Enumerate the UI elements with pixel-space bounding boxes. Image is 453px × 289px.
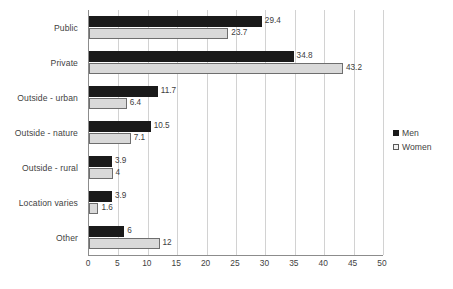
bar-value-label: 7.1 bbox=[134, 134, 145, 142]
bar-row: 29.4 bbox=[89, 16, 383, 27]
bar-group: 11.76.4 bbox=[89, 80, 383, 115]
legend-item-women[interactable]: Women bbox=[393, 140, 453, 154]
bar-women[interactable] bbox=[89, 168, 113, 179]
bar-value-label: 12 bbox=[163, 239, 172, 247]
bar-group: 3.91.6 bbox=[89, 185, 383, 220]
bar-value-label: 10.5 bbox=[154, 122, 170, 130]
legend-label: Women bbox=[402, 142, 431, 152]
bar-row: 23.7 bbox=[89, 28, 383, 39]
bar-value-label: 34.8 bbox=[297, 52, 313, 60]
x-axis-tick-labels: 05101520253035404550 bbox=[88, 258, 382, 274]
bar-men[interactable] bbox=[89, 226, 124, 237]
bar-row: 3.9 bbox=[89, 191, 383, 202]
bar-row: 6 bbox=[89, 226, 383, 237]
bar-women[interactable] bbox=[89, 28, 228, 39]
category-label: Private bbox=[0, 45, 83, 80]
bar-women[interactable] bbox=[89, 63, 343, 74]
bar-men[interactable] bbox=[89, 86, 158, 97]
legend-label: Men bbox=[402, 128, 419, 138]
bar-men[interactable] bbox=[89, 51, 294, 62]
bar-group: 3.94 bbox=[89, 150, 383, 185]
bar-value-label: 4 bbox=[116, 169, 121, 177]
bar-group: 34.843.2 bbox=[89, 45, 383, 80]
bar-men[interactable] bbox=[89, 191, 112, 202]
x-tick-label: 35 bbox=[289, 258, 298, 268]
bar-group: 10.57.1 bbox=[89, 115, 383, 150]
category-label: Other bbox=[0, 220, 83, 255]
bar-row: 4 bbox=[89, 168, 383, 179]
bar-value-label: 29.4 bbox=[265, 17, 281, 25]
bar-row: 7.1 bbox=[89, 133, 383, 144]
bar-value-label: 23.7 bbox=[231, 29, 247, 37]
bar-women[interactable] bbox=[89, 98, 127, 109]
bar-value-label: 3.9 bbox=[115, 157, 126, 165]
category-label: Public bbox=[0, 10, 83, 45]
bar-group: 612 bbox=[89, 220, 383, 255]
bar-value-label: 6.4 bbox=[130, 99, 141, 107]
x-tick-label: 40 bbox=[319, 258, 328, 268]
bar-women[interactable] bbox=[89, 238, 160, 249]
plot-area: 29.423.734.843.211.76.410.57.13.943.91.6… bbox=[88, 10, 383, 256]
bar-row: 10.5 bbox=[89, 121, 383, 132]
chart-legend: MenWomen bbox=[393, 126, 453, 154]
bar-row: 3.9 bbox=[89, 156, 383, 167]
x-tick-label: 45 bbox=[348, 258, 357, 268]
bar-row: 6.4 bbox=[89, 98, 383, 109]
x-tick-label: 15 bbox=[172, 258, 181, 268]
legend-swatch-icon bbox=[393, 130, 399, 136]
bar-women[interactable] bbox=[89, 203, 98, 214]
bar-group: 29.423.7 bbox=[89, 10, 383, 45]
category-label: Outside - nature bbox=[0, 115, 83, 150]
bar-value-label: 3.9 bbox=[115, 192, 126, 200]
x-tick-label: 25 bbox=[230, 258, 239, 268]
bar-row: 34.8 bbox=[89, 51, 383, 62]
bar-groups: 29.423.734.843.211.76.410.57.13.943.91.6… bbox=[89, 10, 383, 255]
bar-row: 1.6 bbox=[89, 203, 383, 214]
category-axis: PublicPrivateOutside - urbanOutside - na… bbox=[0, 10, 83, 255]
legend-item-men[interactable]: Men bbox=[393, 126, 453, 140]
bar-value-label: 1.6 bbox=[101, 204, 112, 212]
x-tick-label: 5 bbox=[115, 258, 120, 268]
bar-men[interactable] bbox=[89, 16, 262, 27]
bar-value-label: 43.2 bbox=[346, 64, 362, 72]
bar-row: 12 bbox=[89, 238, 383, 249]
category-label: Outside - rural bbox=[0, 150, 83, 185]
x-tick-label: 30 bbox=[260, 258, 269, 268]
bar-row: 11.7 bbox=[89, 86, 383, 97]
bar-value-label: 11.7 bbox=[161, 87, 176, 95]
bar-men[interactable] bbox=[89, 156, 112, 167]
x-tick-label: 0 bbox=[86, 258, 91, 268]
bar-chart: PublicPrivateOutside - urbanOutside - na… bbox=[0, 0, 453, 289]
category-label: Outside - urban bbox=[0, 80, 83, 115]
x-tick-label: 10 bbox=[142, 258, 151, 268]
legend-swatch-icon bbox=[393, 144, 399, 150]
category-label: Location varies bbox=[0, 185, 83, 220]
x-tick-label: 50 bbox=[377, 258, 386, 268]
bar-value-label: 6 bbox=[127, 227, 132, 235]
bar-men[interactable] bbox=[89, 121, 151, 132]
bar-women[interactable] bbox=[89, 133, 131, 144]
gridline bbox=[383, 10, 384, 255]
bar-row: 43.2 bbox=[89, 63, 383, 74]
x-tick-label: 20 bbox=[201, 258, 210, 268]
